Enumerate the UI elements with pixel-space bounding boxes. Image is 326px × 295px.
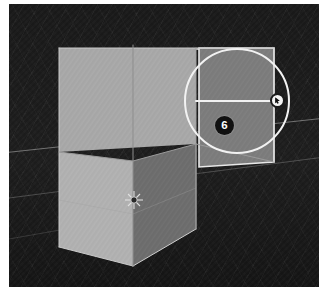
cube-face-front-lower-left [59,152,133,266]
3d-cursor-widget [123,189,145,211]
annotation-step-badge: 6 [215,116,234,135]
mouse-cursor-icon [270,93,285,108]
screenshot-root: 6 [0,0,326,295]
3d-viewport[interactable]: 6 [9,4,319,287]
cube-face-front-upper [59,48,196,152]
cube-mesh[interactable] [9,4,319,287]
annotation-leader-line [195,100,273,102]
